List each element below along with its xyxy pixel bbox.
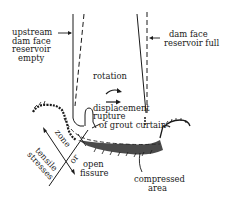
label-dam-face-full: dam face reservoir full [164, 30, 219, 47]
label-line: area [134, 184, 185, 193]
label-line: reservoir full [164, 39, 219, 48]
label-rotation: rotation [93, 72, 127, 81]
label-upstream-empty: upstream dam face reservoir empty [12, 28, 52, 62]
grout-curtain-icon [85, 108, 93, 126]
label-open-fissure: open fissure [80, 160, 109, 177]
arrowhead-icon [117, 88, 122, 93]
arrowhead-icon [149, 36, 153, 40]
label-rupture: rupture of grout curtain [93, 112, 166, 129]
compressed-pointer [139, 153, 142, 172]
label-compressed-area: compressed area [134, 175, 185, 192]
arrowhead-icon [68, 31, 72, 35]
compressed-area [78, 140, 163, 155]
dam-face-downstream-line [137, 14, 146, 113]
dam-base-outline [73, 103, 84, 126]
label-line: empty [12, 54, 52, 63]
dam-face-rotated-dashed-line [75, 14, 84, 106]
label-line: fissure [80, 169, 109, 178]
label-line: of grout curtain [93, 121, 166, 130]
open-fissure-pointer [78, 134, 86, 146]
